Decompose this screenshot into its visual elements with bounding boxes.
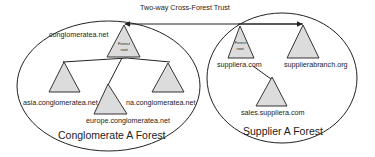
europe-domain-tree bbox=[94, 84, 127, 114]
supplierabranch-label: supplierabranch.org bbox=[284, 60, 348, 69]
conglomerate-tree-edge-horizontal bbox=[63, 58, 170, 62]
forest-root-badge-line2: root bbox=[121, 47, 129, 52]
na-domain-label: na.conglomeratea.net bbox=[126, 98, 196, 107]
supplier-forest-title: Supplier A Forest bbox=[243, 125, 323, 137]
sales-domain-tree bbox=[256, 77, 287, 106]
supplier-forest-root-badge-line1: Forest bbox=[235, 40, 248, 45]
europe-domain-label: europe.conglomeratea.net bbox=[86, 116, 170, 125]
trust-label: Two-way Cross-Forest Trust bbox=[140, 3, 230, 12]
supplierabranch-tree bbox=[287, 25, 319, 58]
asia-domain-tree bbox=[49, 62, 80, 92]
edge-to-europe bbox=[108, 58, 122, 85]
edge-to-sales bbox=[253, 66, 271, 79]
sales-domain-label: sales.suppliera.com bbox=[241, 108, 305, 117]
na-domain-tree bbox=[152, 63, 184, 92]
asia-domain-label: asia.conglomeratea.net bbox=[23, 98, 98, 107]
forest-root-badge-line1: Forest bbox=[118, 41, 131, 46]
supplier-forest-root-badge-line2: root bbox=[237, 46, 245, 51]
conglomerate-forest-title: Conglomerate A Forest bbox=[58, 129, 165, 141]
supplier-forest-boundary bbox=[207, 13, 357, 143]
conglomeratea-root-label: conglomeratea.net bbox=[49, 30, 109, 39]
forest-trust-diagram: Two-way Cross-Forest Trust Forest root c… bbox=[0, 0, 375, 157]
